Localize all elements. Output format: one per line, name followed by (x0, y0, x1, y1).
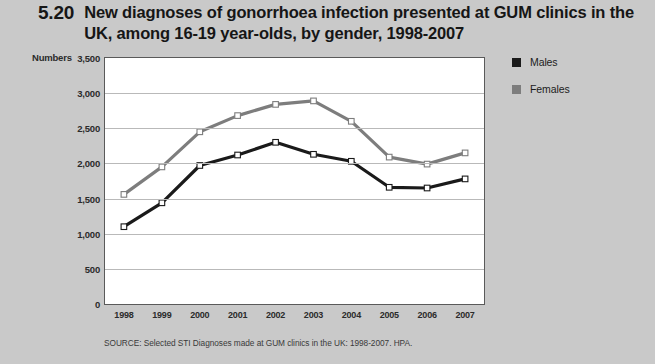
x-tick-label: 1999 (152, 310, 171, 320)
legend-item-label: Males (530, 56, 558, 68)
data-point-marker (311, 152, 317, 158)
gridline (105, 234, 484, 235)
x-tick-label: 2001 (228, 310, 247, 320)
data-point-marker (235, 113, 241, 119)
x-axis-tick-labels: 1998199920002001200220032004200520062007 (104, 310, 485, 326)
data-point-marker (311, 98, 317, 104)
data-point-marker (462, 150, 468, 156)
data-point-marker (121, 192, 127, 198)
source-note: SOURCE: Selected STI Diagnoses made at G… (104, 338, 604, 348)
chart-container: Numbers 3,5003,0002,5002,0001,5001,00050… (0, 0, 655, 364)
plot-area (104, 57, 485, 305)
legend-square-swatch (512, 85, 521, 94)
legend-item-label: Females (530, 83, 570, 95)
x-tick-label: 2004 (342, 310, 361, 320)
data-point-marker (273, 140, 279, 146)
y-axis-tick-labels: 3,5003,0002,5002,0001,5001,0005000 (58, 57, 100, 305)
x-tick-label: 2006 (418, 310, 437, 320)
data-point-marker (159, 164, 165, 170)
y-tick-label: 1,000 (77, 228, 100, 239)
gridline (105, 93, 484, 94)
legend-item-males[interactable]: Males (512, 56, 632, 68)
y-tick-label: 2,500 (77, 123, 100, 134)
data-point-marker (424, 185, 430, 191)
gridline (105, 199, 484, 200)
y-tick-label: 3,000 (77, 88, 100, 99)
gridline (105, 163, 484, 164)
chart-legend: MalesFemales (512, 56, 632, 110)
y-tick-label: 1,500 (77, 193, 100, 204)
gridline (105, 269, 484, 270)
gridline (105, 128, 484, 129)
y-tick-label: 500 (85, 263, 100, 274)
x-tick-label: 2003 (304, 310, 323, 320)
y-tick-label: 3,500 (77, 53, 100, 64)
data-point-marker (273, 102, 279, 108)
x-tick-label: 1998 (114, 310, 133, 320)
data-point-marker (386, 185, 392, 191)
data-point-marker (159, 200, 165, 206)
x-tick-label: 2005 (380, 310, 399, 320)
series-lines (105, 58, 484, 304)
data-point-marker (386, 154, 392, 160)
x-tick-label: 2007 (455, 310, 474, 320)
y-tick-label: 2,000 (77, 158, 100, 169)
x-tick-label: 2002 (266, 310, 285, 320)
data-point-marker (462, 176, 468, 182)
data-point-marker (121, 224, 127, 230)
y-tick-label: 0 (95, 299, 100, 310)
data-point-marker (197, 129, 203, 135)
data-point-marker (235, 152, 241, 158)
legend-square-swatch (512, 58, 521, 67)
x-tick-label: 2000 (190, 310, 209, 320)
legend-item-females[interactable]: Females (512, 83, 632, 95)
data-point-marker (349, 119, 355, 125)
